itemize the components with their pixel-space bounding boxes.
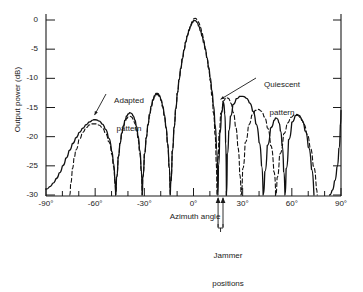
jammer-positions-line2: positions [196, 279, 260, 288]
x-axis-ticks [46, 188, 341, 196]
y-tick-label: -20 [12, 132, 38, 141]
x-tick-label: 30° [226, 199, 260, 208]
y-tick-label: -5 [12, 44, 38, 53]
x-tick-label: 90° [324, 199, 358, 208]
adapted-pattern-annotation: Adapted pattern [98, 78, 160, 152]
y-tick-label: 0 [12, 15, 38, 24]
jammer-positions-line1: Jammer [196, 251, 260, 260]
quiescent-pattern-annotation: Quiescent pattern [248, 62, 316, 136]
series-solid [330, 110, 341, 195]
y-tick-label: -15 [12, 103, 38, 112]
adapted-pattern-line1: Adapted [98, 96, 160, 105]
x-tick-label: -30° [127, 199, 161, 208]
x-tick-label: -90° [29, 199, 63, 208]
quiescent-pattern-line2: pattern [248, 108, 316, 117]
quiescent-pattern-line1: Quiescent [248, 80, 316, 89]
adapted-pattern-line2: pattern [98, 124, 160, 133]
x-tick-label: 0° [177, 199, 211, 208]
y-tick-label: -25 [12, 161, 38, 170]
x-axis-title: Azimuth angle [120, 212, 270, 221]
y-tick-label: -30 [12, 190, 38, 199]
x-tick-label: -60° [78, 199, 112, 208]
jammer-positions-annotation: Jammer positions [196, 233, 260, 292]
x-tick-label: 60° [275, 199, 309, 208]
y-tick-label: -10 [12, 73, 38, 82]
